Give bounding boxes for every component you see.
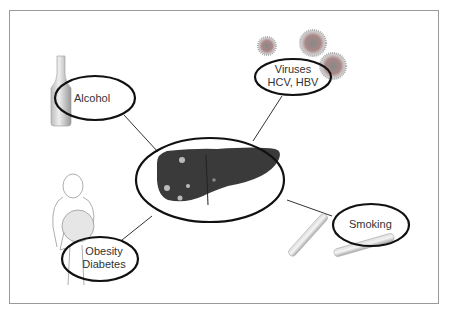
connector-viruses	[253, 96, 282, 141]
liver-icon	[157, 148, 280, 206]
diagram-canvas	[0, 0, 449, 311]
label-line: Diabetes	[78, 258, 130, 271]
connector-obesity	[122, 216, 152, 240]
bottle-icon	[51, 56, 71, 126]
node-label-obesity: Obesity Diabetes	[78, 245, 130, 271]
label-line: Smoking	[349, 218, 392, 230]
label-line: HCV, HBV	[262, 76, 324, 89]
label-line: Viruses	[262, 63, 324, 76]
node-label-smoking: Smoking	[349, 218, 392, 231]
node-label-alcohol: Alcohol	[74, 92, 110, 105]
connector-smoking	[287, 200, 332, 216]
connector-alcohol	[124, 115, 158, 152]
node-label-viruses: Viruses HCV, HBV	[262, 63, 324, 89]
label-line: Obesity	[78, 245, 130, 258]
label-line: Alcohol	[74, 92, 110, 104]
